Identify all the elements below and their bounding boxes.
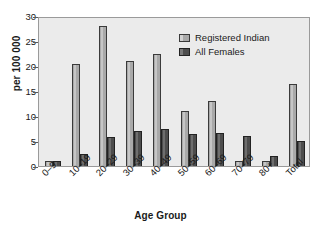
x-axis-title: Age Group	[0, 210, 321, 221]
chart-legend: Registered Indian All Females	[179, 32, 269, 60]
bar-group	[153, 16, 169, 166]
legend-item-registered-indian: Registered Indian	[179, 32, 269, 43]
legend-label-all-females: All Females	[195, 47, 245, 57]
y-tick-label: 15	[0, 87, 36, 97]
y-tick-label: 5	[0, 137, 36, 147]
y-tick-label: 20	[0, 62, 36, 72]
bar	[289, 84, 297, 167]
bar	[72, 64, 80, 166]
legend-swatch-all-females	[179, 48, 190, 56]
y-tick-label: 30	[0, 12, 36, 22]
y-tick-mark	[33, 167, 38, 168]
bar-group	[99, 16, 115, 166]
legend-label-registered-indian: Registered Indian	[195, 33, 269, 43]
y-tick-label: 10	[0, 112, 36, 122]
bar-chart-figure: per 100 000 051015202530 Registered Indi…	[0, 0, 321, 229]
y-tick-label: 0	[0, 162, 36, 172]
y-tick-label: 25	[0, 37, 36, 47]
bar	[153, 54, 161, 167]
plot-area: Registered Indian All Females	[38, 17, 310, 167]
bar-group	[45, 16, 61, 166]
legend-item-all-females: All Females	[179, 46, 269, 57]
bar-group	[72, 16, 88, 166]
legend-swatch-registered-indian	[179, 34, 190, 42]
bar-group	[126, 16, 142, 166]
bar	[126, 61, 134, 166]
bar-group	[289, 16, 305, 166]
bar	[99, 26, 107, 166]
